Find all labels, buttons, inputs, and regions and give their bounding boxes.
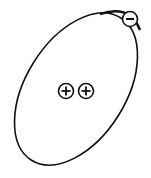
atom-diagram xyxy=(0,0,151,178)
electron xyxy=(123,12,138,27)
proton-1 xyxy=(59,84,74,99)
proton-2 xyxy=(79,84,94,99)
